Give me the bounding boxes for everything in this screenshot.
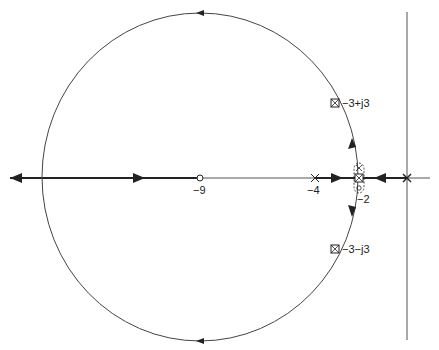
arrow-neg4-to-neg2 [331,173,343,183]
boxed-pole-lower [331,245,339,253]
zero-marker-neg9 [197,175,203,181]
arrow-toward-neg9-right [133,173,145,183]
label-lower-pole: −3−j3 [342,243,370,255]
label-neg2: −2 [357,193,370,205]
boxed-pole-upper [331,99,339,107]
label-neg4: −4 [307,184,320,196]
pole-zero-cancel-neg2 [354,163,364,193]
label-upper-pole: −3+j3 [342,97,370,109]
label-neg9: −9 [193,184,206,196]
arrow-circle-top [196,10,204,16]
root-locus-diagram: −9 −4 −2 −3+j3 −3−j3 [0,0,439,350]
arrow-left-end [10,173,22,183]
arrow-origin-to-neg2 [374,173,386,183]
arrow-circle-bottom [196,338,204,344]
